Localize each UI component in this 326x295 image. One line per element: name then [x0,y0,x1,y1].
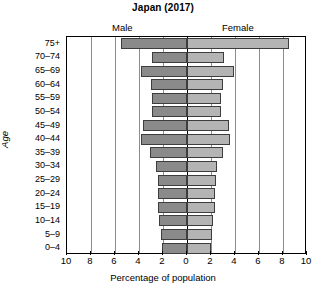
bar-male-70–74 [152,52,187,63]
bar-male-10–14 [159,215,187,226]
plot-area [66,36,306,254]
bar-male-60–64 [151,79,187,90]
gridline [115,37,116,253]
series-label-female: Female [222,22,254,33]
population-pyramid-chart: Japan (2017) Male Female 0–45–910–1415–1… [0,0,326,295]
chart-title: Japan (2017) [0,2,326,13]
bar-male-75+ [121,38,187,49]
gridline [259,37,260,253]
y-tick-label-35–39: 35–39 [35,147,60,157]
y-tick-label-20–24: 20–24 [35,188,60,198]
bar-male-45–49 [143,120,187,131]
bar-male-55–59 [152,93,187,104]
y-tick-label-10–14: 10–14 [35,215,60,225]
bar-female-45–49 [187,120,229,131]
y-tick-label-0–4: 0–4 [45,242,60,252]
x-tick-label-8-9: 8 [279,255,284,266]
bar-female-60–64 [187,79,223,90]
bar-female-55–59 [187,93,221,104]
y-tick-label-75+: 75+ [45,38,60,48]
bar-male-5–9 [161,229,187,240]
x-tick-label-8-1: 8 [87,255,92,266]
y-tick-label-30–34: 30–34 [35,160,60,170]
bar-female-20–24 [187,188,215,199]
gridline [139,37,140,253]
bar-female-75+ [187,38,289,49]
y-tick-label-40–44: 40–44 [35,133,60,143]
y-tick-label-65–69: 65–69 [35,65,60,75]
y-tick-label-45–49: 45–49 [35,120,60,130]
x-tick-label-2-6: 2 [207,255,212,266]
x-tick-label-4-7: 4 [231,255,236,266]
x-tick-label-6-2: 6 [111,255,116,266]
bar-male-65–69 [141,66,187,77]
gridline [235,37,236,253]
x-tick-label-10-0: 10 [61,255,72,266]
bar-male-20–24 [158,188,187,199]
bar-female-25–29 [187,175,216,186]
bar-female-40–44 [187,134,230,145]
bar-female-5–9 [187,229,212,240]
y-tick-label-70–74: 70–74 [35,51,60,61]
x-tick-label-0-5: 0 [183,255,188,266]
x-tick-label-6-8: 6 [255,255,260,266]
bar-male-40–44 [141,134,187,145]
bar-male-35–39 [150,147,187,158]
bar-male-25–29 [158,175,187,186]
y-tick-label-25–29: 25–29 [35,174,60,184]
y-tick-label-50–54: 50–54 [35,106,60,116]
x-tick-label-10-10: 10 [301,255,312,266]
bar-male-0–4 [162,243,187,254]
y-axis-tick-labels: 0–45–910–1415–1920–2425–2930–3435–3940–4… [0,36,64,254]
bar-male-15–19 [158,202,187,213]
x-axis-tick-labels: 1086420246810 [66,255,306,269]
bar-female-15–19 [187,202,215,213]
y-tick-label-5–9: 5–9 [45,229,60,239]
gridline [91,37,92,253]
bar-female-70–74 [187,52,224,63]
bar-female-30–34 [187,161,217,172]
y-tick-label-15–19: 15–19 [35,201,60,211]
x-axis-title: Percentage of population [0,272,326,283]
bar-male-50–54 [152,106,187,117]
bar-female-50–54 [187,106,221,117]
bar-male-30–34 [156,161,187,172]
bar-female-35–39 [187,147,223,158]
y-axis-title: Age [0,110,10,170]
bar-female-10–14 [187,215,213,226]
bar-female-65–69 [187,66,234,77]
x-tick-label-4-3: 4 [135,255,140,266]
gridline [283,37,284,253]
y-tick-label-60–64: 60–64 [35,79,60,89]
series-label-male: Male [112,22,133,33]
x-tick-label-2-4: 2 [159,255,164,266]
bar-female-0–4 [187,243,211,254]
y-tick-label-55–59: 55–59 [35,92,60,102]
